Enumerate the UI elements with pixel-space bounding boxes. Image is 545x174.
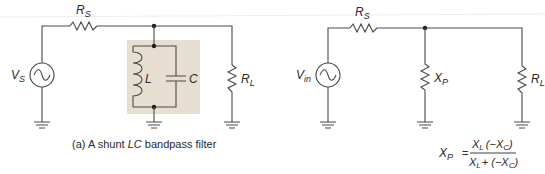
formula-denominator: XL+ (−XC) <box>468 156 518 170</box>
rl-label: RL <box>241 72 255 88</box>
right-circuit: RS Vin XP RL XP = XL(−XC) XL+ (−XC) <box>296 5 545 170</box>
inductor-label: L <box>145 72 152 86</box>
series-resistor-rs <box>70 22 97 30</box>
circuit-diagram: RS VS L C RL (a) A shunt LC bandpass fil… <box>0 0 545 174</box>
wire-top-rail <box>377 28 522 66</box>
load-resistor-rl <box>514 66 530 128</box>
formula-lhs: XP <box>438 146 453 162</box>
series-resistor-rs <box>350 24 377 32</box>
sine-wave-icon <box>320 70 336 81</box>
xp-label: XP <box>433 71 448 87</box>
load-resistor-rl <box>224 65 240 128</box>
rl-label: RL <box>531 72 545 88</box>
rs-label: RS <box>76 3 91 19</box>
shunt-reactance-xp <box>417 28 433 128</box>
tank-top-node <box>152 44 156 48</box>
left-circuit: RS VS L C RL (a) A shunt LC bandpass fil… <box>11 3 255 150</box>
sine-wave-icon <box>34 70 50 81</box>
wire-source-top <box>42 26 70 63</box>
vin-label: Vin <box>296 68 311 84</box>
rs-label: RS <box>355 5 370 21</box>
formula-equals: = <box>462 147 468 159</box>
capacitor-label: C <box>189 72 198 86</box>
ground-icon <box>320 87 336 128</box>
ground-icon <box>34 87 50 128</box>
formula-numerator: XL(−XC) <box>471 138 513 152</box>
vs-label: VS <box>11 68 25 84</box>
figure-caption: (a) A shunt LC bandpass filter <box>72 138 217 150</box>
wire-source-top <box>328 28 350 63</box>
xp-formula: XP = XL(−XC) XL+ (−XC) <box>438 138 518 170</box>
